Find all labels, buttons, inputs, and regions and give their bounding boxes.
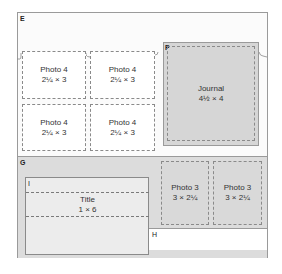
section-h-area xyxy=(149,228,267,250)
title-box-size: 1 × 6 xyxy=(78,205,96,215)
photo4-size: 2¼ × 3 xyxy=(42,75,67,85)
photo3-title: Photo 3 xyxy=(224,183,252,193)
journal-title: Journal xyxy=(198,84,224,94)
photo4-box-3: Photo 4 2¼ × 3 xyxy=(22,104,86,151)
section-i-label: I xyxy=(28,180,30,187)
photo4-box-4: Photo 4 2¼ × 3 xyxy=(90,104,155,151)
title-bottom-guide xyxy=(26,216,149,217)
photo3-box-2: Photo 3 3 × 2¼ xyxy=(213,161,262,225)
section-h-label: H xyxy=(152,231,157,238)
photo4-title: Photo 4 xyxy=(109,118,137,128)
photo3-title: Photo 3 xyxy=(171,183,199,193)
section-e-label: E xyxy=(20,15,25,22)
photo4-box-2: Photo 4 2¼ × 3 xyxy=(90,51,155,99)
section-g-label: G xyxy=(20,159,25,166)
photo3-size: 3 × 2¼ xyxy=(173,193,198,203)
journal-box: Journal 4½ × 4 xyxy=(167,46,255,141)
photo3-box-1: Photo 3 3 × 2¼ xyxy=(161,161,209,225)
photo4-size: 2¼ × 3 xyxy=(110,128,135,138)
photo3-size: 3 × 2¼ xyxy=(225,193,250,203)
title-box-title: Title xyxy=(80,195,95,205)
title-box: Title 1 × 6 xyxy=(26,193,149,216)
photo4-title: Photo 4 xyxy=(40,118,68,128)
photo4-title: Photo 4 xyxy=(109,65,137,75)
photo4-title: Photo 4 xyxy=(40,65,68,75)
photo4-size: 2¼ × 3 xyxy=(42,128,67,138)
photo4-box-1: Photo 4 2¼ × 3 xyxy=(22,51,86,99)
journal-size: 4½ × 4 xyxy=(199,94,224,104)
photo4-size: 2¼ × 3 xyxy=(110,75,135,85)
